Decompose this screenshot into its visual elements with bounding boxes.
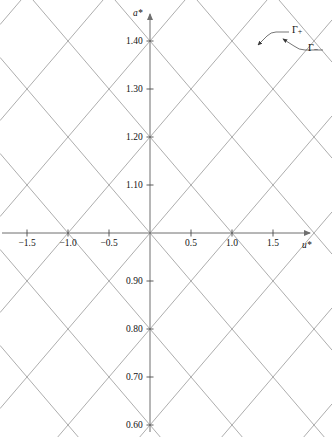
lattice-line-group	[0, 0, 332, 437]
x-tick-label: −1.5	[19, 238, 36, 248]
x-tick-label: 0.5	[185, 238, 197, 248]
gamma-minus-line	[0, 57, 332, 437]
y-tick-label: 1.10	[126, 180, 143, 190]
gamma-plus-annotation: Γ+	[292, 24, 302, 36]
gamma-minus-line	[0, 249, 332, 437]
gamma-minus-annotation: Γ−	[308, 42, 318, 54]
gamma-plus-line	[0, 116, 332, 437]
y-axis-label: a*	[133, 8, 143, 18]
x-tick-label: 1.5	[267, 238, 279, 248]
y-tick-label: 0.60	[126, 420, 143, 430]
gamma-plus-line	[0, 20, 332, 409]
gamma-plus-line	[0, 308, 332, 437]
axes-group	[2, 14, 310, 432]
gamma-minus-line	[0, 0, 332, 350]
y-tick-label: 0.90	[126, 276, 143, 286]
gamma-plus-line	[0, 0, 332, 217]
y-tick-label: 1.20	[126, 132, 143, 142]
gamma-minus-line	[0, 0, 332, 254]
x-tick-label: −0.5	[101, 238, 118, 248]
gamma-plus-leader	[258, 32, 289, 45]
x-tick-label: 1.0	[226, 238, 238, 248]
gamma-minus-line	[0, 0, 332, 158]
gamma-plus-line	[0, 0, 332, 121]
x-tick-label: −1.0	[60, 238, 77, 248]
gamma-plus-line	[0, 404, 332, 437]
gamma-minus-line	[0, 345, 332, 437]
lattice-plot	[0, 0, 332, 437]
y-tick-label: 0.70	[126, 372, 143, 382]
y-tick-label: 1.40	[126, 36, 143, 46]
gamma-plus-line	[0, 0, 332, 313]
y-tick-label: 0.80	[126, 324, 143, 334]
gamma-minus-subscript: −	[314, 45, 319, 54]
x-axis-label: u*	[302, 240, 312, 250]
gamma-plus-subscript: +	[298, 27, 303, 36]
gamma-minus-line	[0, 0, 332, 62]
y-tick-label: 1.30	[126, 84, 143, 94]
figure-container: u* a* Γ+ Γ− −1.5−1.0−0.50.51.01.51.401.3…	[0, 0, 332, 437]
